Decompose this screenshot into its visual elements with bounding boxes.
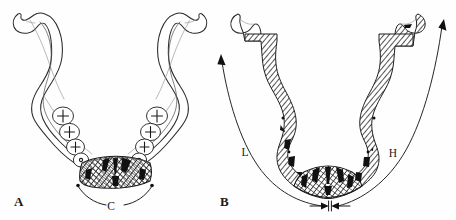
condyle-crease-left-b <box>240 19 254 24</box>
c-bracket-left-arc <box>78 186 106 205</box>
panel-b: L H B <box>217 14 446 211</box>
annotation-label-c: C <box>107 200 115 212</box>
tooth-r2 <box>141 123 161 140</box>
condyle-notch-right-b <box>404 24 412 28</box>
panel-label-a: A <box>14 194 24 209</box>
mandible-figure-svg: C A <box>0 0 456 220</box>
l-arc-arrowhead <box>217 54 225 65</box>
c-bracket-left-dot <box>76 184 80 188</box>
tooth-l1 <box>53 107 74 125</box>
c-bracket-right-arc <box>124 186 152 205</box>
width-dimension-marker-b <box>310 201 350 211</box>
symphysis-region-b <box>294 166 362 199</box>
panel-a: C A <box>13 13 207 212</box>
c-bracket-right-dot <box>150 184 154 188</box>
tooth-l2 <box>60 123 80 140</box>
condyle-crease-right-b <box>402 19 416 24</box>
h-arc-arrowhead <box>438 19 446 31</box>
width-arrowhead-left <box>321 203 329 210</box>
tooth-r1 <box>147 107 168 125</box>
figure-container: C A <box>0 0 456 220</box>
width-arrowhead-right <box>331 203 339 210</box>
panel-label-b: B <box>220 194 229 209</box>
annotation-label-h: H <box>389 147 397 159</box>
annotation-label-l: L <box>241 146 248 158</box>
